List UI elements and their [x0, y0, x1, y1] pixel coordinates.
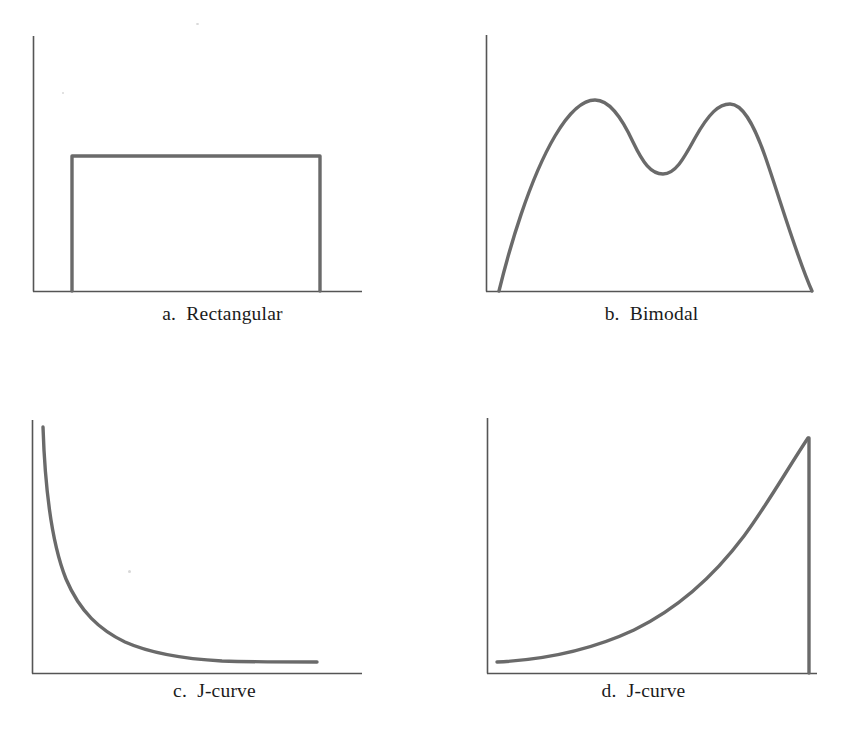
paper-speck — [128, 570, 131, 573]
j-curve-decreasing — [43, 427, 317, 662]
panel-rectangular: a. Rectangular — [0, 0, 429, 368]
panel-j-curve-increasing: d. J-curve — [429, 368, 858, 736]
panel-bimodal: b. Bimodal — [429, 0, 858, 368]
paper-speck — [196, 23, 199, 25]
rectangular-curve — [72, 156, 320, 291]
panel-caption-c: c. J-curve — [0, 680, 429, 702]
panel-caption-d: d. J-curve — [429, 680, 858, 702]
panel-caption-a: a. Rectangular — [0, 303, 437, 325]
panel-j-curve-decreasing: c. J-curve — [0, 368, 429, 736]
j-curve-increasing — [497, 438, 808, 662]
paper-speck — [62, 92, 64, 94]
figure-sheet: a. Rectangular b. Bimodal c. J-curve — [0, 0, 858, 736]
bimodal-curve — [499, 100, 812, 291]
panel-caption-b: b. Bimodal — [429, 303, 858, 325]
